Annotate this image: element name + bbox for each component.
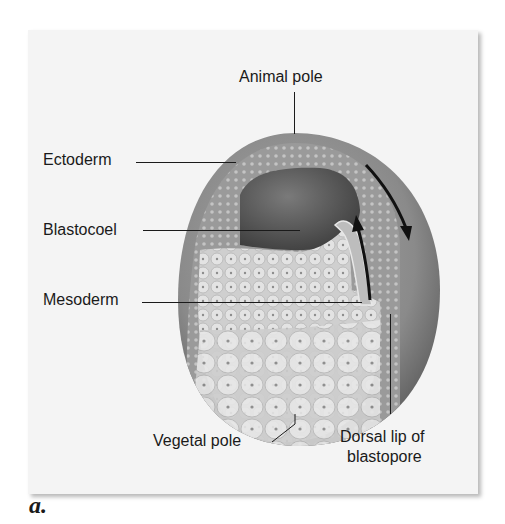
leader-mesoderm — [142, 302, 362, 303]
leader-vegetal-pole — [270, 414, 300, 448]
label-vegetal-pole: Vegetal pole — [153, 432, 241, 450]
label-dorsal-lip-line1: Dorsal lip of — [340, 428, 424, 446]
label-dorsal-lip-line2: blastopore — [347, 448, 422, 466]
panel-letter: a. — [29, 492, 47, 519]
leader-animal-pole — [294, 92, 295, 134]
label-animal-pole: Animal pole — [239, 68, 323, 86]
label-ectoderm: Ectoderm — [43, 151, 111, 169]
leader-ectoderm — [136, 162, 236, 163]
label-mesoderm: Mesoderm — [43, 291, 119, 309]
leader-blastocoel — [143, 230, 300, 231]
leader-dorsal-lip — [390, 314, 391, 414]
label-blastocoel: Blastocoel — [43, 221, 117, 239]
